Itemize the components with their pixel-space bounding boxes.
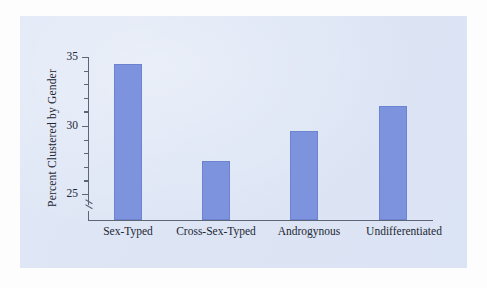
x-label-undifferentiated: Undifferentiated	[351, 225, 457, 237]
y-tick-label-30: 30	[52, 119, 78, 131]
y-tick-label-25-wrap: 25	[52, 187, 78, 201]
y-tick-minor-31	[84, 111, 88, 112]
bar-cross-sex-typed	[202, 161, 230, 220]
y-tick-label-25: 25	[52, 187, 78, 199]
y-axis-spine	[88, 57, 89, 205]
y-tick-minor-32	[84, 98, 88, 99]
y-tick-minor-33	[84, 84, 88, 85]
plot-area: Percent Clustered by Gender 35 30 25	[0, 0, 487, 288]
x-label-sex-typed: Sex-Typed	[88, 225, 168, 237]
y-tick-major-30	[82, 126, 88, 127]
y-tick-minor-34	[84, 71, 88, 72]
bar-sex-typed	[114, 64, 142, 220]
y-tick-label-35: 35	[52, 50, 78, 62]
axis-break-icon	[83, 199, 95, 213]
y-tick-minor-29	[84, 140, 88, 141]
x-axis-spine	[88, 220, 433, 221]
y-tick-major-25	[82, 194, 88, 195]
bar-undifferentiated	[379, 106, 407, 220]
bar-androgynous	[290, 131, 318, 220]
x-label-cross-sex-typed: Cross-Sex-Typed	[166, 225, 266, 237]
y-axis-title: Percent Clustered by Gender	[46, 48, 58, 228]
x-label-androgynous: Androgynous	[262, 225, 356, 237]
y-tick-minor-28	[84, 153, 88, 154]
y-tick-label-30-wrap: 30	[52, 119, 78, 133]
y-tick-major-35	[82, 57, 88, 58]
y-tick-minor-27	[84, 167, 88, 168]
chart-screenshot: Percent Clustered by Gender 35 30 25	[0, 0, 487, 288]
y-tick-label-35-wrap: 35	[52, 50, 78, 64]
y-tick-minor-26	[84, 180, 88, 181]
